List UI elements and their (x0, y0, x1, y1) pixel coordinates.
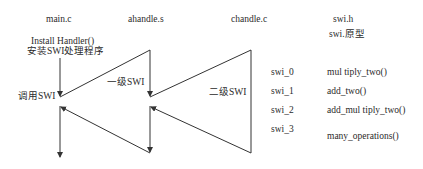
flow-diagram (0, 0, 423, 169)
swi-function-1: add_two() (327, 86, 366, 97)
column-header-ahandle: ahandle.s (128, 14, 164, 25)
swi-id-0: swi_0 (271, 67, 294, 78)
level1-swi-label: 一级SWI (107, 77, 144, 88)
swi-id-1: swi_1 (271, 86, 294, 97)
chandle-return-arrow (151, 107, 251, 153)
column-header-swi-proto: swi.原型 (329, 29, 365, 40)
swi-function-0: mul tiply_two() (327, 67, 387, 78)
main-to-ahandle-line (60, 50, 150, 97)
call-swi-label: 调用SWI (18, 91, 55, 102)
swi-function-2: add_mul tiply_two() (327, 105, 405, 116)
swi-id-3: swi_3 (271, 124, 294, 135)
swi-function-3: many_operations() (327, 131, 399, 142)
install-handler-cn-label: 安装SWI处理程序 (27, 46, 104, 57)
column-header-swi-h: swi.h (333, 14, 353, 25)
column-header-chandle: chandle.c (231, 14, 267, 25)
column-header-main: main.c (46, 14, 72, 25)
ahandle-return-arrow (61, 107, 150, 153)
swi-id-2: swi_2 (271, 105, 294, 116)
level2-swi-label: 二级SWI (209, 87, 246, 98)
